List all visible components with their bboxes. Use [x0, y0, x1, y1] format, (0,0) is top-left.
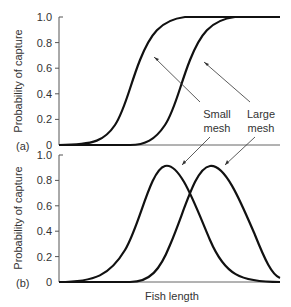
y-axis-label-a: Probability of capture: [12, 29, 24, 132]
large-mesh-arrow-a: [204, 62, 250, 102]
tick-b-0.2: 0.2: [37, 251, 52, 263]
tick-a-0.2: 0.2: [37, 113, 52, 125]
tick-a-0.8: 0.8: [37, 37, 52, 49]
y-axis-label-b: Probability of capture: [12, 166, 24, 269]
tick-a-1.0: 1.0: [37, 11, 52, 23]
tick-b-0.6: 0.6: [37, 200, 52, 212]
tick-b-0.8: 0.8: [37, 174, 52, 186]
panel-a-label: (a): [16, 140, 29, 152]
tick-b-1.0: 1.0: [37, 149, 52, 161]
small-mesh-label-line1: Small: [203, 108, 231, 120]
capture-probability-figure: 1.0 0.8 0.6 0.4 0.2 0 (a) Probability of…: [0, 0, 291, 307]
tick-a-0.6: 0.6: [37, 62, 52, 74]
tick-b-0.4: 0.4: [37, 225, 52, 237]
large-mesh-arrow-b: [225, 137, 255, 165]
large-mesh-label-line2: mesh: [248, 122, 275, 134]
large-mesh-label-line1: Large: [247, 108, 275, 120]
panel-a: 1.0 0.8 0.6 0.4 0.2 0 (a) Probability of…: [12, 11, 280, 165]
tick-a-0.4: 0.4: [37, 88, 52, 100]
small-mesh-curve-b: [59, 166, 280, 282]
panel-b-label: (b): [16, 277, 29, 289]
panel-b: 1.0 0.8 0.6 0.4 0.2 0 (b) Probability of…: [12, 149, 280, 302]
tick-b-0: 0: [46, 276, 52, 288]
large-mesh-curve-b: [59, 166, 280, 282]
small-mesh-label-line2: mesh: [204, 122, 231, 134]
x-axis-label: Fish length: [145, 290, 199, 302]
small-mesh-arrow-b: [182, 137, 210, 165]
